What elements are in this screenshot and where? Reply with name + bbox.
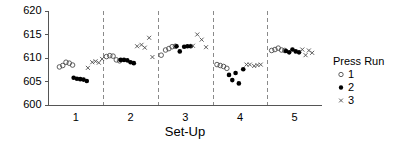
data-points-layer [57,33,314,86]
point-filled-circle [339,85,343,89]
series-2 [71,44,301,86]
point-cross [252,64,256,68]
x-tick-label: 4 [237,111,243,123]
legend-entry-label-2: 2 [348,81,354,93]
point-cross [248,63,252,67]
point-cross [200,38,204,42]
point-filled-circle [174,44,179,49]
group-divider-lines [104,11,268,105]
point-cross [86,66,90,70]
y-tick-label: 600 [23,98,41,110]
point-cross [204,45,208,49]
point-cross [259,63,263,67]
point-cross [310,51,314,55]
legend-entry-label-1: 1 [348,68,354,80]
y-tick-label: 620 [23,4,41,16]
point-open-circle [159,53,164,58]
x-tick-label: 2 [127,111,133,123]
y-tick-group: 600605610615620 [23,4,48,110]
point-cross [300,48,304,52]
point-cross [195,33,199,37]
point-filled-circle [241,67,246,72]
x-axis: 12345 [49,106,323,124]
legend: Press Run 123 [333,55,384,106]
legend-entry-label-3: 3 [348,94,354,106]
y-axis: 600605610615620 [23,4,48,110]
series-1 [57,44,287,71]
point-filled-circle [230,78,235,83]
point-filled-circle [84,79,89,84]
point-cross [100,57,104,61]
x-axis-title: Set-Up [165,124,205,139]
point-filled-circle [227,73,232,78]
x-tick-label: 3 [182,111,188,123]
point-cross [150,55,154,59]
chart-root: 600605610615620 12345 Set-Up Press Run 1… [0,0,401,142]
point-cross [135,44,139,48]
x-tick-label: 5 [292,111,298,123]
legend-title: Press Run [333,55,384,67]
y-tick-label: 610 [23,51,41,63]
point-cross [339,99,343,103]
point-filled-circle [233,71,238,76]
y-tick-label: 605 [23,75,41,87]
y-tick-label: 615 [23,28,41,40]
scatter-chart: 600605610615620 12345 Set-Up Press Run 1… [0,0,401,142]
point-filled-circle [177,49,182,54]
point-open-circle [339,72,343,76]
x-tick-label: 1 [73,111,79,123]
point-cross [143,46,147,50]
point-cross [304,53,308,57]
point-filled-circle [237,81,242,86]
point-cross [307,48,311,52]
point-filled-circle [132,61,137,66]
point-cross [90,60,94,64]
x-tick-group: 12345 [73,111,298,123]
point-cross [147,36,151,40]
